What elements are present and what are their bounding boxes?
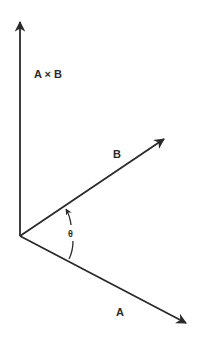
angle-theta-label: θ	[68, 229, 73, 239]
vector-diagram: A × B B A θ	[0, 0, 198, 341]
angle-arc-upper-arrow	[66, 209, 71, 225]
vector-b-label: B	[113, 148, 121, 160]
vector-b-arrow	[20, 139, 164, 236]
angle-arc-lower	[69, 241, 73, 259]
vector-a-label: A	[116, 306, 124, 318]
vector-a-arrow	[20, 236, 186, 323]
cross-product-label: A × B	[34, 68, 62, 80]
